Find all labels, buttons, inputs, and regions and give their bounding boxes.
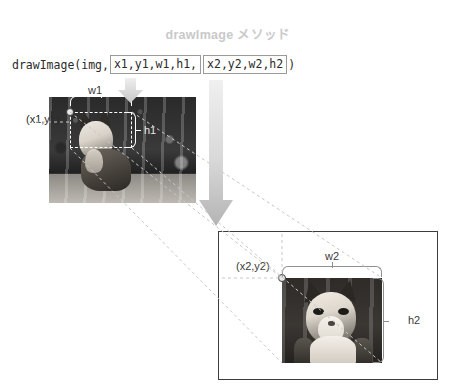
destination-width-brace	[282, 266, 382, 277]
source-height-label: h1	[144, 124, 156, 136]
code-box-dest-params: x2,y2,w2,h2	[203, 55, 287, 74]
code-prefix: drawImage(img,	[12, 56, 109, 74]
source-width-brace	[70, 96, 132, 106]
code-suffix: )	[288, 56, 295, 74]
code-signature: drawImage(img, x1,y1,w1,h1, x2,y2,w2,h2 …	[12, 55, 295, 74]
destination-height-brace	[373, 278, 384, 363]
cat-nose	[328, 321, 335, 326]
source-origin-label: (x1,y1)	[26, 113, 60, 125]
destination-image	[282, 278, 382, 363]
cat-chest	[85, 149, 103, 173]
cat-chest	[310, 336, 356, 363]
destination-width-label: w2	[325, 250, 339, 262]
source-width-label: w1	[88, 84, 102, 96]
destination-cat-subject	[296, 282, 368, 363]
code-box-source-params: x1,y1,w1,h1,	[110, 55, 201, 74]
destination-origin-label: (x2,y2)	[236, 260, 270, 272]
page-title: drawImage メソッド	[0, 24, 456, 43]
source-origin-marker	[66, 108, 74, 116]
destination-height-label: h2	[408, 314, 420, 326]
cat-eye-left	[313, 308, 324, 315]
diagram-root: drawImage メソッド drawImage(img, x1,y1,w1,h…	[0, 0, 456, 391]
down-arrow-icon-large	[199, 80, 233, 226]
cat-eye-right	[338, 308, 349, 315]
source-crop-rect	[70, 112, 132, 148]
source-height-brace	[126, 112, 136, 148]
